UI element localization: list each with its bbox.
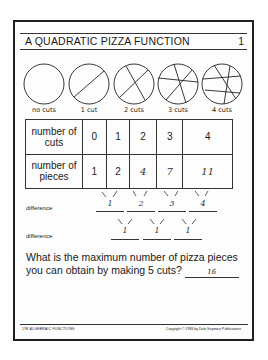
- second-difference-blank: [143, 239, 171, 240]
- answer-field[interactable]: 16: [185, 268, 239, 278]
- second-difference-label: difference: [26, 233, 52, 239]
- second-difference-blank: [111, 239, 139, 240]
- first-difference-blank: [189, 211, 217, 212]
- first-difference-value[interactable]: 1: [96, 199, 124, 208]
- second-difference-value[interactable]: 1: [111, 226, 139, 235]
- difference-tick-marks: [0, 0, 268, 360]
- first-difference-value[interactable]: 2: [127, 199, 155, 208]
- second-difference-blank: [174, 239, 202, 240]
- first-difference-value[interactable]: 3: [158, 199, 186, 208]
- first-difference-label: difference: [26, 205, 52, 211]
- question-block: What is the maximum number of pizza piec…: [26, 251, 252, 278]
- footer-copyright: Copyright © 1983 by Dale Seymour Publica…: [166, 327, 241, 331]
- footer-book-title: 198 ALGEBRAIC FUNCTIONS: [22, 327, 75, 331]
- second-difference-value[interactable]: 1: [174, 226, 202, 235]
- footer-divider: [20, 324, 248, 325]
- first-difference-value[interactable]: 4: [189, 199, 217, 208]
- first-difference-blank: [158, 211, 186, 212]
- first-difference-blank: [96, 211, 124, 212]
- second-difference-value[interactable]: 1: [143, 226, 171, 235]
- first-difference-blank: [127, 211, 155, 212]
